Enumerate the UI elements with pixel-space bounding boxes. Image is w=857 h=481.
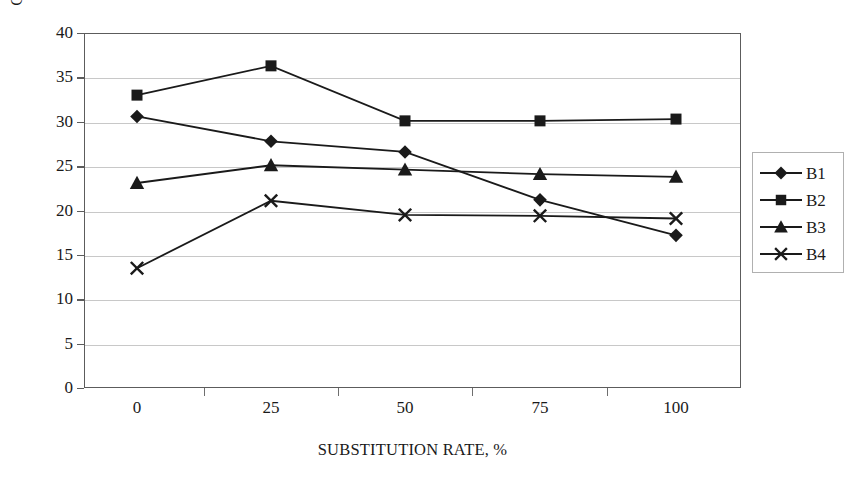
x-axis-tick-label: 100 — [646, 398, 706, 418]
y-axis-tick-label: 5 — [33, 335, 73, 352]
x-icon — [759, 244, 803, 264]
x-axis-tick-label: 50 — [375, 398, 435, 418]
y-axis-tick-label: 20 — [33, 202, 73, 219]
x-axis-tick-label: 75 — [510, 398, 570, 418]
square-icon — [759, 190, 803, 210]
legend-label: B1 — [803, 165, 826, 182]
gridline — [85, 300, 740, 301]
y-axis-tick-mark — [77, 255, 84, 256]
y-axis-tick-label: 40 — [33, 24, 73, 41]
y-axis-tick-label: 15 — [33, 246, 73, 263]
y-axis-tick-label: 25 — [33, 157, 73, 174]
legend-label: B4 — [803, 246, 826, 263]
x-axis-tick-mark — [338, 388, 339, 396]
x-axis-tick-label: 25 — [241, 398, 301, 418]
y-axis-tick-label: 35 — [33, 68, 73, 85]
y-axis-tick-mark — [77, 344, 84, 345]
legend-item-b4[interactable]: B4 — [759, 241, 841, 267]
gridline — [85, 167, 740, 168]
gridline — [85, 345, 740, 346]
y-axis-tick-mark — [77, 388, 84, 389]
diamond-icon — [759, 163, 803, 183]
x-axis-title: SUBSTITUTION RATE, % — [84, 440, 741, 460]
legend-item-b2[interactable]: B2 — [759, 187, 841, 213]
x-axis-tick-mark — [472, 388, 473, 396]
y-axis-tick-mark — [77, 33, 84, 34]
legend-label: B2 — [803, 192, 826, 209]
gridline — [85, 256, 740, 257]
y-axis-tick-mark — [77, 166, 84, 167]
x-axis-tick-label: 0 — [107, 398, 167, 418]
legend-item-b3[interactable]: B3 — [759, 214, 841, 240]
y-axis-tick-label: 0 — [33, 379, 73, 396]
y-axis-title: COMPRESSIVE STRENGTH, MPa — [4, 0, 30, 59]
y-axis-tick-label: 30 — [33, 113, 73, 130]
legend-item-b1[interactable]: B1 — [759, 160, 841, 186]
y-axis-tick-mark — [77, 77, 84, 78]
gridline — [85, 212, 740, 213]
gridline — [85, 78, 740, 79]
y-axis-tick-label: 10 — [33, 290, 73, 307]
chart-figure: COMPRESSIVE STRENGTH, MPa 05101520253035… — [0, 0, 857, 481]
legend: B1B2B3B4 — [752, 152, 844, 273]
y-axis-tick-mark — [77, 211, 84, 212]
legend-label: B3 — [803, 219, 826, 236]
x-axis-tick-mark — [204, 388, 205, 396]
x-axis-tick-mark — [607, 388, 608, 396]
gridline — [85, 123, 740, 124]
y-axis-tick-mark — [77, 299, 84, 300]
plot-area — [84, 33, 741, 388]
triangle-icon — [759, 217, 803, 237]
y-axis-tick-mark — [77, 122, 84, 123]
